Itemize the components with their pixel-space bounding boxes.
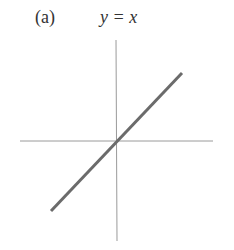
plot-area (0, 0, 234, 250)
